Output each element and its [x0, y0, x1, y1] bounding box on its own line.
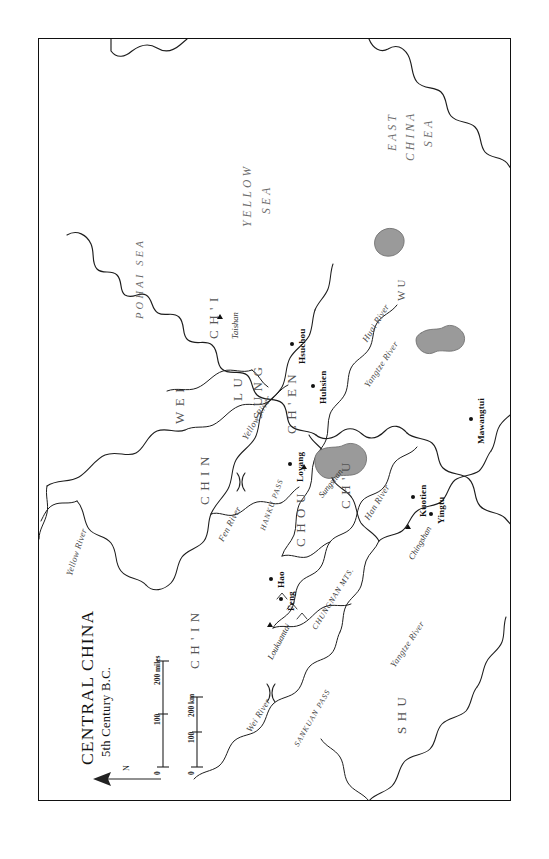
scale-miles-tick-100: 100 [153, 714, 162, 725]
river-yellow-bend-north [146, 514, 211, 590]
sankuan-pass-symbol [267, 684, 270, 702]
north-arrow-n-glyph: N [122, 765, 131, 771]
hanku-pass-symbol [237, 473, 240, 491]
river-yellow-upper [77, 501, 146, 585]
mountain-symbol-sungshan [301, 464, 307, 469]
lake-taihu [375, 228, 405, 256]
north-arrow: N [89, 757, 169, 801]
boundary-chen [281, 487, 299, 503]
scale-km-tick-0: 0 [187, 771, 196, 775]
coastline-shandong-peninsula [67, 233, 316, 435]
mountain-symbol-loukuantai [267, 622, 273, 627]
coastline-east-lower [407, 433, 511, 526]
river-yellow-mouth [315, 264, 333, 310]
river-yellow-west-loop [47, 430, 185, 486]
river-yangtze-mid [477, 617, 506, 687]
scale-km-tick-100: 100 [187, 732, 196, 743]
sankuan-pass-symbol-2 [272, 684, 275, 702]
map-subtitle: 5th Century B.C. [99, 667, 114, 757]
hanku-pass-symbol-2 [242, 473, 245, 491]
boundary-wei-chi [167, 370, 252, 391]
river-yangtze-north-branch [333, 480, 379, 541]
lake-dongting [315, 443, 367, 478]
boundary-chin-west [39, 486, 48, 539]
river-yangtze-east-mouth [491, 409, 511, 451]
river-wei-east-join [340, 541, 379, 632]
river-fen [185, 385, 288, 430]
boundary-chou-chu [282, 542, 330, 557]
river-yangtze-upper [369, 687, 477, 801]
coastline-pohai-north [111, 39, 187, 56]
scale-miles-unit-label: 200 miles [153, 656, 162, 685]
lake-poyang [416, 325, 465, 353]
map-neatline-frame: YELLOW SEA EAST CHINA SEA POHAI SEA CH'I… [38, 38, 511, 801]
scale-km-unit-label: 200 km [187, 694, 196, 717]
coastline-east-china-sea [369, 39, 511, 170]
boundary-chin-south [41, 501, 77, 521]
mountain-symbol-taishan [217, 314, 223, 319]
river-yangtze-lower [379, 451, 491, 541]
map-figure: YELLOW SEA EAST CHINA SEA POHAI SEA CH'I… [0, 0, 549, 859]
boundary-chin-chi [211, 502, 281, 516]
coastline-yellow-sea [316, 426, 407, 438]
mountain-symbol-chingshan [405, 524, 411, 529]
boundary-lu-sung [252, 370, 268, 387]
river-yellow-to-sea [211, 310, 315, 514]
map-title: CENTRAL CHINA [77, 610, 98, 765]
boundary-shu-chu [321, 739, 369, 801]
